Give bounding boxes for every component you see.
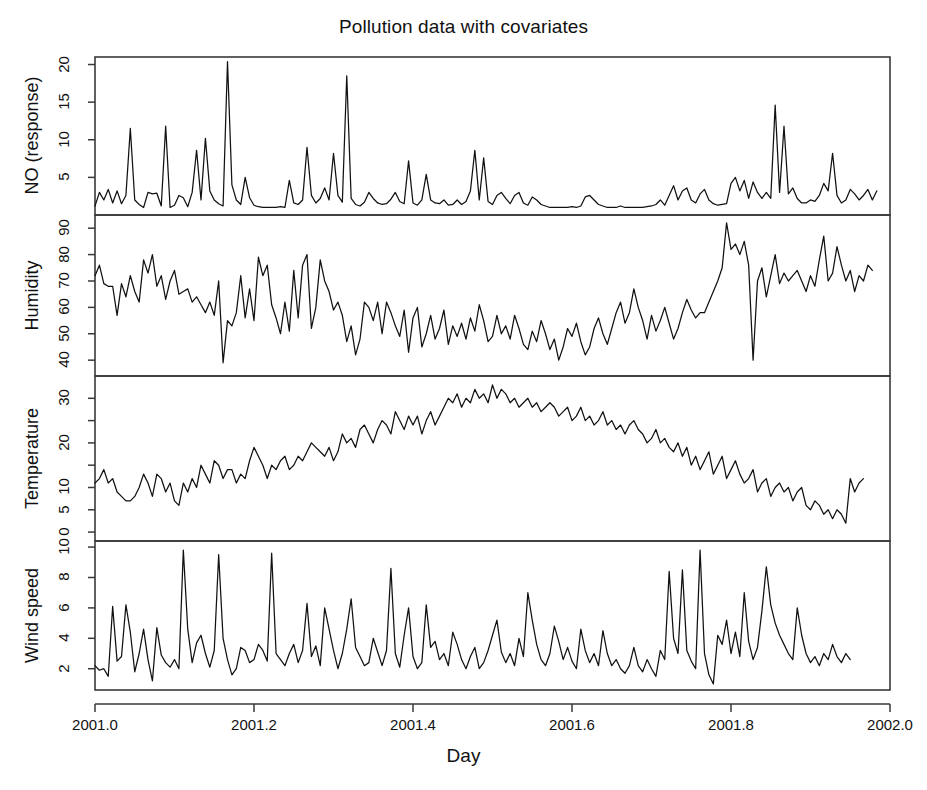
y-axis-title-wind-speed: Wind speed: [22, 541, 43, 690]
x-tick-label: 2001.6: [527, 716, 617, 733]
y-axis-title-humidity: Humidity: [22, 215, 43, 376]
x-tick-label: 2001.4: [368, 716, 458, 733]
panel-frame-temperature: [95, 376, 890, 541]
y-axis-title-no-response: NO (response): [22, 57, 43, 215]
y-tick-label: 90: [55, 208, 72, 248]
pollution-figure: Pollution data with covariates 5101520NO…: [0, 0, 927, 790]
x-axis-title: Day: [0, 745, 927, 767]
y-tick-label: 10: [55, 119, 72, 159]
panel-frame-wind-speed: [95, 541, 890, 690]
x-tick-label: 2001.8: [686, 716, 776, 733]
series-line-temperature: [95, 385, 864, 523]
y-tick-label: 10: [55, 467, 72, 507]
series-line-wind-speed: [95, 550, 850, 684]
y-tick-label: 5: [55, 157, 72, 197]
y-tick-label: 20: [55, 422, 72, 462]
x-tick-label: 2001.0: [50, 716, 140, 733]
y-tick-label: 10: [55, 527, 72, 567]
panel-frame-humidity: [95, 215, 890, 376]
y-tick-label: 20: [55, 44, 72, 84]
series-line-no-response: [95, 62, 877, 208]
series-line-humidity: [95, 223, 872, 363]
y-axis-title-temperature: Temperature: [22, 376, 43, 541]
y-tick-label: 15: [55, 82, 72, 122]
x-tick-label: 2002.0: [845, 716, 927, 733]
plot-canvas: [0, 0, 927, 790]
page-title: Pollution data with covariates: [0, 16, 927, 38]
x-tick-label: 2001.2: [209, 716, 299, 733]
y-tick-label: 30: [55, 378, 72, 418]
